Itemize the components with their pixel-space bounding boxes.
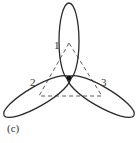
dashed-triangle bbox=[39, 43, 102, 96]
three-lobed-curve-diagram: 1 2 3 (c) bbox=[0, 0, 138, 143]
lobe-1 bbox=[59, 3, 79, 79]
lobe-2 bbox=[0, 69, 75, 124]
label-1: 1 bbox=[54, 39, 60, 51]
label-2: 2 bbox=[30, 76, 36, 88]
figure-caption: (c) bbox=[7, 122, 20, 135]
center-point bbox=[66, 75, 71, 80]
label-3: 3 bbox=[101, 76, 107, 88]
